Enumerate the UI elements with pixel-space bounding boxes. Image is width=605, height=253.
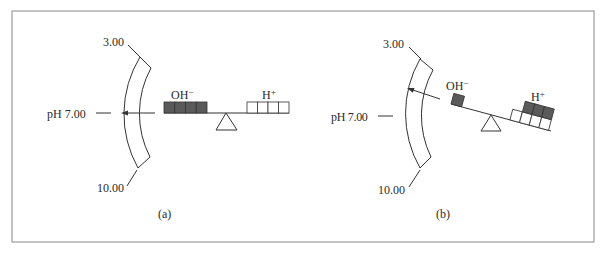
scale-middle-label: pH 7.00 [47,107,86,121]
h-label: H+ [262,87,276,102]
oh-boxes [164,102,207,113]
h-label: H+ [531,89,545,104]
scale-top-label: 3.00 [103,35,124,49]
panel-b: 3.00 10.00 pH 7.00 OH [331,37,554,221]
scale-top-label: 3.00 [383,37,404,51]
figure-frame [12,11,594,242]
scale-bottom-label: 10.00 [97,181,124,195]
oh-boxes [451,93,464,106]
scale-bottom-label: 10.00 [378,183,405,197]
panel-a: 3.00 10.00 pH 7.00 OH− H+ (a) [47,35,289,221]
ph-scale-arc [406,59,433,168]
fulcrum-triangle-icon [216,113,237,130]
ph-balance-diagram: 3.00 10.00 pH 7.00 OH− H+ (a) [0,0,605,253]
h-boxes [247,102,289,113]
tick-top [128,45,140,57]
tick-bottom [127,170,137,186]
caption-b: (b) [436,207,450,221]
fulcrum-triangle-icon [481,115,501,131]
tick-bottom [409,170,420,187]
caption-a: (a) [158,207,171,221]
scale-middle-label: pH 7.00 [331,110,368,124]
tick-top [409,47,421,59]
oh-label: OH− [446,78,468,93]
oh-label: OH− [171,87,193,102]
